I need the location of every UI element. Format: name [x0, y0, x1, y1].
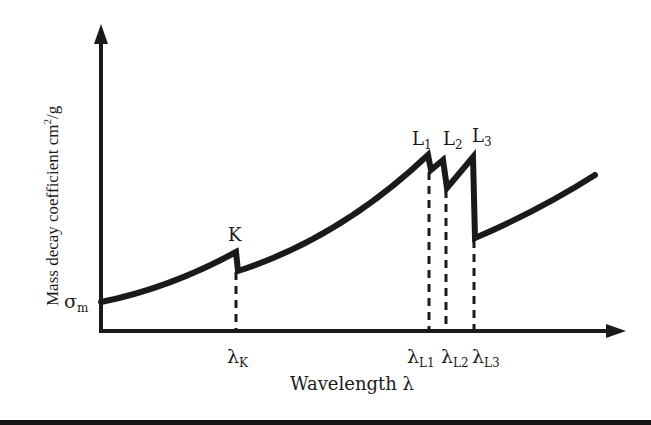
- x-axis-label: Wavelength λ: [290, 375, 414, 393]
- sigma-symbol: σ: [64, 290, 77, 312]
- bottom-divider: [0, 420, 651, 425]
- lambda-k: λ: [227, 345, 239, 367]
- edge-label-l3-sub: 3: [484, 135, 492, 149]
- x-axis-label-text: Wavelength λ: [290, 373, 414, 394]
- edge-label-l3-text: L: [472, 125, 484, 146]
- y-axis-label-text: Mass decay coefficient cm: [43, 125, 62, 306]
- edge-label-l2-text: L: [443, 128, 455, 149]
- x-axis-arrow-icon: [606, 324, 626, 338]
- absorption-edge-diagram: [0, 0, 651, 425]
- sigma-subscript: m: [77, 301, 88, 315]
- edge-label-l1-sub: 1: [424, 138, 432, 152]
- edge-label-l2: L2: [443, 130, 463, 151]
- lambda-l3: λ: [472, 345, 484, 367]
- lambda-l2: λ: [441, 345, 453, 367]
- wavelength-label-l1: λL1: [407, 347, 435, 369]
- origin-tick-label: σm: [64, 292, 88, 314]
- lambda-l3-sub: L3: [484, 356, 500, 370]
- lambda-l1: λ: [407, 345, 419, 367]
- wavelength-label-l2: λL2: [441, 347, 469, 369]
- x-axis: [99, 324, 626, 338]
- wavelength-label-l3: λL3: [472, 347, 500, 369]
- edge-dashed-lines: [236, 172, 474, 331]
- y-axis: [94, 24, 108, 331]
- edge-label-l1-text: L: [412, 128, 424, 149]
- y-axis-label: Mass decay coefficient cm2/g: [42, 106, 61, 306]
- edge-label-k-text: K: [228, 224, 241, 245]
- lambda-l1-sub: L1: [419, 356, 435, 370]
- lambda-l2-sub: L2: [453, 356, 469, 370]
- y-axis-arrow-icon: [94, 24, 108, 44]
- edge-label-l3: L3: [472, 127, 492, 148]
- edge-label-l1: L1: [412, 130, 432, 151]
- wavelength-label-k: λK: [227, 347, 248, 369]
- absorption-curve: [101, 155, 595, 302]
- edge-label-k: K: [228, 226, 241, 244]
- y-axis-label-suffix: /g: [43, 106, 62, 119]
- lambda-k-sub: K: [239, 356, 248, 370]
- y-axis-label-superscript: 2: [41, 119, 53, 125]
- edge-label-l2-sub: 2: [455, 138, 463, 152]
